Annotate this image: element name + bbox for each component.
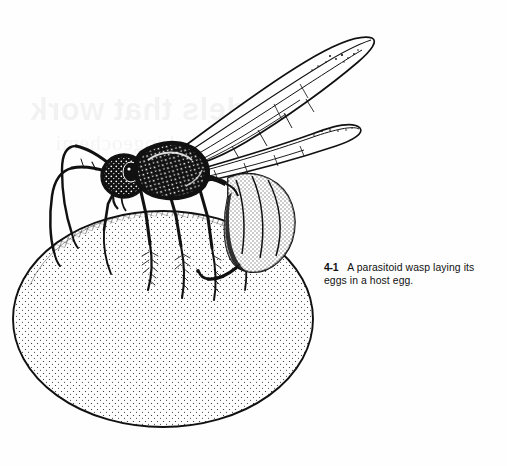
figure-number: 4-1 — [324, 262, 338, 273]
scanned-page: Models that work biogeochemi — [0, 0, 507, 466]
figure-caption: 4-1 A parasitoid wasp laying its eggs in… — [324, 261, 490, 287]
figure-caption-text: A parasitoid wasp laying its eggs in a h… — [324, 262, 474, 286]
figure-illustration — [0, 0, 507, 466]
